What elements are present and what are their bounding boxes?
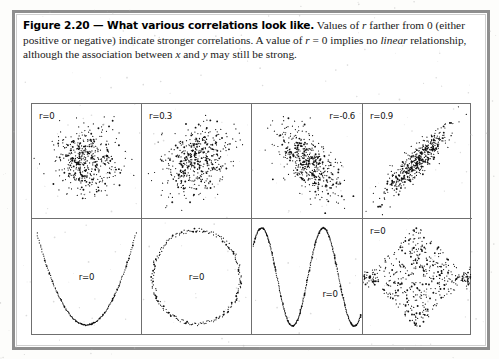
correlation-label-panel-diamond: r=0 [370, 226, 385, 236]
figure-caption: Figure 2.20 — What various correlations … [23, 18, 479, 62]
scatter-points-tilted-cloud [363, 104, 472, 218]
scatter-points-tilted-cloud [252, 104, 362, 218]
correlation-label-panel-sine: r=0 [322, 289, 337, 299]
scatter-panel-parabola: r=0 [32, 219, 142, 335]
scatter-panel-circle: r=0 [142, 219, 252, 335]
correlation-label-panel-r0-cloud: r=0 [39, 111, 54, 121]
correlation-label-panel-parabola: r=0 [79, 272, 94, 282]
figure-caption-label: Figure 2.20 — What various correlations … [23, 19, 314, 31]
correlation-label-panel-r-06: r=-0.6 [329, 111, 355, 121]
scatter-points-sine [252, 219, 362, 335]
scatter-panel-tilted-cloud: r=0.3 [142, 104, 252, 219]
scatter-points-diamond [363, 219, 472, 335]
figure-caption-text-3: = 0 implies no [310, 34, 381, 46]
scatter-panel-diamond: r=0 [363, 219, 472, 335]
correlation-label-panel-r03: r=0.3 [149, 111, 172, 121]
scatter-panel-sine: r=0 [252, 219, 363, 335]
scatter-panel-tilted-cloud: r=0.9 [363, 104, 472, 219]
figure-caption-text-5: and [180, 48, 202, 60]
figure-page: Figure 2.20 — What various correlations … [0, 0, 499, 359]
figure-caption-emph-linear: linear [380, 34, 407, 46]
scatter-points-tilted-cloud [142, 104, 251, 218]
scatter-panel-round-cloud: r=0 [32, 104, 142, 219]
correlation-label-panel-circle: r=0 [189, 272, 204, 282]
correlation-label-panel-r09: r=0.9 [370, 111, 393, 121]
scatter-points-round-cloud [32, 104, 141, 218]
figure-caption-text-1: Values of [317, 19, 362, 31]
correlation-panel-grid: r=0r=0.3r=-0.6r=0.9r=0r=0r=0r=0 [31, 103, 471, 335]
figure-caption-text-6: may still be strong. [207, 48, 296, 60]
scatter-panel-tilted-cloud: r=-0.6 [252, 104, 363, 219]
